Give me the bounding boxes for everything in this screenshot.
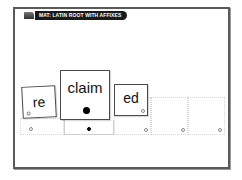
mat-header: MAT: LATIN ROOT WITH AFFIXES xyxy=(24,11,127,20)
card-prefix-re[interactable]: re xyxy=(21,85,57,119)
slot-3-marker-icon xyxy=(144,128,148,132)
mat-title: MAT: LATIN ROOT WITH AFFIXES xyxy=(35,11,127,20)
card-label: claim xyxy=(67,80,102,95)
slot-1[interactable] xyxy=(20,118,64,135)
card-root-claim[interactable]: claim xyxy=(60,70,110,120)
slot-4-marker-icon xyxy=(181,128,185,132)
card-suffix-ed[interactable]: ed xyxy=(114,84,148,116)
card-marker-icon xyxy=(141,109,145,113)
slot-2-marker-icon xyxy=(87,127,91,131)
tab-icon xyxy=(24,12,34,19)
slot-5-marker-icon xyxy=(218,128,222,132)
slot-1-marker-icon xyxy=(29,127,33,131)
card-label: ed xyxy=(123,91,139,105)
card-label: re xyxy=(32,95,45,110)
card-marker-icon xyxy=(83,107,90,114)
card-marker-icon xyxy=(26,111,30,115)
